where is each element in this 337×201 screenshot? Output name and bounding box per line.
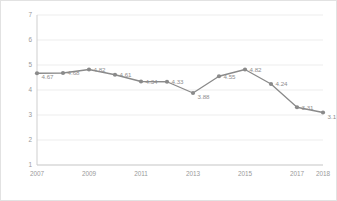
svg-text:4: 4 (28, 86, 32, 93)
svg-text:4.82: 4.82 (250, 66, 263, 73)
svg-text:2011: 2011 (134, 170, 148, 177)
svg-text:2009: 2009 (82, 170, 97, 177)
svg-text:2015: 2015 (238, 170, 253, 177)
svg-text:3: 3 (28, 111, 32, 118)
svg-text:2007: 2007 (30, 170, 45, 177)
y-axis-tick-labels: 1234567 (28, 11, 32, 168)
svg-text:4.33: 4.33 (172, 78, 185, 85)
svg-text:2013: 2013 (186, 170, 201, 177)
svg-text:4.24: 4.24 (276, 80, 289, 87)
chart-plot-area: 1234567 2007200920112013201520172018 4.6… (1, 1, 337, 201)
svg-text:3.88: 3.88 (198, 93, 211, 100)
svg-text:4.67: 4.67 (42, 73, 55, 80)
data-series-line (37, 70, 323, 113)
svg-text:4.82: 4.82 (94, 66, 107, 73)
x-axis-tick-labels: 2007200920112013201520172018 (30, 170, 331, 177)
svg-text:6: 6 (28, 36, 32, 43)
svg-text:3.1: 3.1 (328, 113, 337, 120)
svg-text:4.68: 4.68 (68, 69, 81, 76)
svg-text:4.61: 4.61 (120, 71, 133, 78)
svg-text:4.34: 4.34 (146, 78, 159, 85)
svg-text:2017: 2017 (290, 170, 305, 177)
svg-text:4.55: 4.55 (224, 73, 237, 80)
svg-text:7: 7 (28, 11, 32, 18)
gridlines (37, 15, 323, 165)
svg-text:3.31: 3.31 (302, 104, 315, 111)
svg-text:2: 2 (28, 136, 32, 143)
data-point-labels: 4.674.684.824.614.344.333.884.554.824.24… (42, 66, 337, 120)
svg-text:1: 1 (28, 161, 32, 168)
svg-text:5: 5 (28, 61, 32, 68)
svg-text:2018: 2018 (316, 170, 331, 177)
line-chart-container: 1234567 2007200920112013201520172018 4.6… (0, 0, 337, 201)
